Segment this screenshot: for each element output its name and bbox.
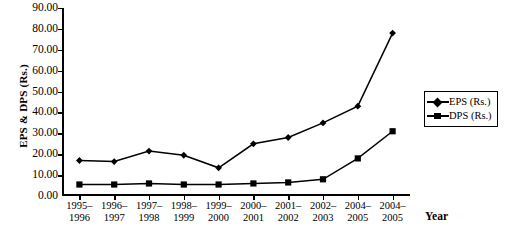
- x-axis-tick-labels: 1995–19961996–19971997–19981998–19991999…: [62, 200, 410, 234]
- series-eps: [76, 30, 396, 172]
- data-point-square: [250, 180, 256, 186]
- data-point-diamond: [285, 134, 292, 141]
- x-axis-tick-label: 2001–2002: [275, 200, 301, 224]
- x-axis-tick-label: 1998–1999: [171, 200, 197, 224]
- x-axis-tick-label: 2004–2005: [345, 200, 371, 224]
- legend-item-eps[interactable]: EPS (Rs.): [427, 95, 492, 109]
- y-axis-tick-label: 80.00: [12, 23, 58, 35]
- data-point-diamond: [76, 157, 83, 164]
- data-point-square: [355, 155, 361, 161]
- x-axis-tick-label: 2000–2001: [240, 200, 266, 224]
- y-axis-tick-label: 90.00: [12, 2, 58, 14]
- x-axis-tick-label: 1996–1997: [101, 200, 127, 224]
- data-point-diamond: [354, 103, 361, 110]
- y-axis-tick-label: 50.00: [12, 86, 58, 98]
- y-axis-tick-mark: [58, 175, 62, 176]
- x-axis-tick-label: 1997–1998: [136, 200, 162, 224]
- y-axis-tick-label: 20.00: [12, 148, 58, 160]
- plot-area: [62, 8, 410, 196]
- diamond-marker-icon: [427, 96, 449, 108]
- y-axis-tick-label: 30.00: [12, 127, 58, 139]
- data-point-square: [76, 181, 82, 187]
- y-axis-tick-mark: [58, 50, 62, 51]
- eps-dps-line-chart: EPS & DPS (Rs.) 0.0010.0020.0030.0040.00…: [0, 0, 528, 246]
- data-point-diamond: [111, 158, 118, 165]
- y-axis-tick-mark: [58, 8, 62, 9]
- data-point-diamond: [180, 152, 187, 159]
- data-point-square: [146, 180, 152, 186]
- data-point-square: [285, 179, 291, 185]
- legend-label-dps: DPS (Rs.): [449, 110, 492, 122]
- chart-legend: EPS (Rs.) DPS (Rs.): [424, 91, 498, 127]
- x-axis-tick-label: 1999–2000: [205, 200, 231, 224]
- y-axis-tick-label: 70.00: [12, 44, 58, 56]
- y-axis-tick-label: 60.00: [12, 65, 58, 77]
- y-axis-tick-label: 0.00: [12, 190, 58, 202]
- y-axis-tick-mark: [58, 71, 62, 72]
- square-marker-icon: [427, 110, 449, 122]
- y-axis-tick-labels: 0.0010.0020.0030.0040.0050.0060.0070.008…: [10, 0, 58, 246]
- y-axis-tick-mark: [58, 29, 62, 30]
- y-axis-tick-label: 40.00: [12, 106, 58, 118]
- series-layer: [62, 8, 410, 196]
- legend-label-eps: EPS (Rs.): [449, 96, 490, 108]
- y-axis-tick-mark: [58, 92, 62, 93]
- data-point-square: [390, 128, 396, 134]
- series-line: [79, 33, 392, 168]
- y-axis-tick-mark: [58, 154, 62, 155]
- legend-item-dps[interactable]: DPS (Rs.): [427, 109, 492, 123]
- x-axis-tick-label: 2002–2003: [310, 200, 336, 224]
- data-point-square: [181, 181, 187, 187]
- y-axis-tick-mark: [58, 112, 62, 113]
- data-point-square: [320, 176, 326, 182]
- data-point-square: [111, 181, 117, 187]
- data-point-diamond: [146, 148, 153, 155]
- data-point-diamond: [389, 30, 396, 37]
- x-axis-title: Year: [425, 210, 448, 222]
- data-point-square: [216, 181, 222, 187]
- x-axis-tick-label: 2004–2005: [379, 200, 405, 224]
- data-point-diamond: [320, 119, 327, 126]
- y-axis-tick-mark: [58, 133, 62, 134]
- x-axis-tick-label: 1995–1996: [66, 200, 92, 224]
- y-axis-tick-label: 10.00: [12, 169, 58, 181]
